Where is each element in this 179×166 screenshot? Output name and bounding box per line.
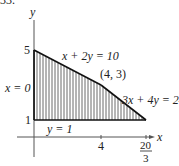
y-tick-5: 5: [24, 43, 30, 57]
y-axis-label: y: [29, 5, 36, 19]
label-vertex: (4, 3): [100, 67, 126, 81]
figure-number: 33.: [0, 0, 15, 7]
feasible-region-diagram: 33. y x 5 1 4 20 3 x + 2y = 10 (4, 3) 3x…: [0, 0, 179, 166]
label-line1: x + 2y = 10: [61, 49, 119, 63]
y-tick-1: 1: [25, 113, 31, 127]
x-tick-label-4: 4: [98, 139, 104, 153]
label-line2: 3x + 4y = 24: [121, 93, 179, 107]
label-line4: y = 1: [46, 122, 72, 136]
x-tick-label-3-den: 3: [143, 152, 149, 164]
x-tick-label-20-num: 20: [140, 139, 152, 151]
x-axis-label: x: [156, 130, 163, 144]
label-line3: x = 0: [4, 81, 30, 95]
